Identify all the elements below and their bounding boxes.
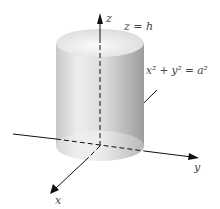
x-axis-front <box>55 158 88 189</box>
cylinder-diagram: z y x z = h x² + y² = a² <box>0 0 220 209</box>
x-axis-label: x <box>55 194 62 207</box>
y-axis-left <box>13 134 56 139</box>
y-axis-arrow-icon <box>188 153 199 160</box>
z-axis-label: z <box>105 12 112 25</box>
x-axis-arrow-icon <box>50 184 59 194</box>
z-axis-arrow-icon <box>97 13 103 24</box>
y-axis-right <box>144 151 192 157</box>
cylinder-equation-label: x² + y² = a² <box>146 64 208 76</box>
top-plane-label: z = h <box>123 20 153 33</box>
y-axis-label: y <box>193 161 201 174</box>
